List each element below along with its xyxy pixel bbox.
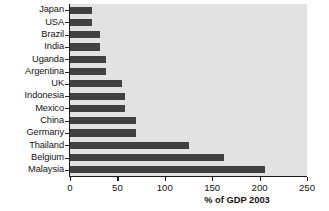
category-label: Mexico [0, 104, 64, 113]
x-axis-tick-label: 50 [112, 183, 123, 193]
category-label: Brazil [0, 30, 64, 39]
category-label: Indonesia [0, 91, 64, 100]
bar [70, 31, 100, 38]
category-label: Germany [0, 128, 64, 137]
bar [70, 129, 136, 136]
x-axis-tick [70, 177, 71, 181]
x-axis-tick-label: 0 [67, 183, 72, 193]
category-label: Argentina [0, 67, 64, 76]
bar-chart: JapanUSABrazilIndiaUgandaArgentinaUKIndo… [0, 0, 329, 211]
bar [70, 80, 122, 87]
category-label: Thailand [0, 141, 64, 150]
x-axis-tick-label: 150 [204, 183, 220, 193]
bar [70, 19, 92, 26]
x-axis-tick [117, 177, 118, 181]
bar [70, 68, 106, 75]
bar [70, 43, 100, 50]
x-axis-tick-label: 100 [157, 183, 173, 193]
bar [70, 166, 265, 173]
bar [70, 154, 224, 161]
category-label: Uganda [0, 55, 64, 64]
bar [70, 105, 125, 112]
bar-series [70, 4, 307, 176]
category-label: Belgium [0, 153, 64, 162]
x-axis-tick [260, 177, 261, 181]
x-axis-tick [165, 177, 166, 181]
category-label: China [0, 116, 64, 125]
category-label: Japan [0, 5, 64, 14]
x-axis-tick [307, 177, 308, 181]
x-axis-tick-label: 200 [252, 183, 268, 193]
bar [70, 142, 189, 149]
bar [70, 56, 106, 63]
x-axis-line [69, 176, 307, 177]
category-label: USA [0, 18, 64, 27]
x-axis-title: % of GDP 2003 [204, 195, 269, 205]
category-axis-labels: JapanUSABrazilIndiaUgandaArgentinaUKIndo… [0, 4, 64, 176]
category-label: India [0, 42, 64, 51]
x-axis-tick [212, 177, 213, 181]
category-label: UK [0, 79, 64, 88]
y-axis-line [69, 4, 70, 177]
bar [70, 117, 136, 124]
bar [70, 93, 125, 100]
bar [70, 7, 92, 14]
x-axis-tick-label: 250 [299, 183, 315, 193]
category-label: Malaysia [0, 165, 64, 174]
